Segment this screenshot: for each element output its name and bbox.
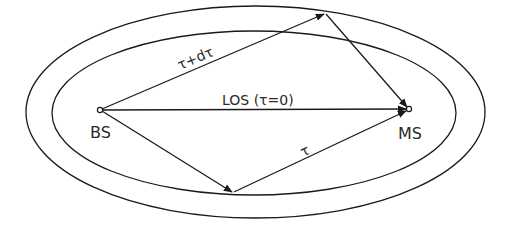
inner-delay-ellipse	[52, 31, 456, 195]
ms-node-marker	[406, 106, 411, 111]
bs-node-marker	[97, 107, 102, 112]
bs-label: BS	[90, 123, 111, 142]
inner-path-leg1-arrow	[102, 111, 232, 192]
multipath-delay-ellipse-diagram: BS MS LOS (τ=0) τ+dτ τ	[0, 0, 511, 226]
inner-path-label: τ	[298, 142, 312, 160]
outer-path-label: τ+dτ	[175, 43, 216, 72]
los-path-arrow	[102, 109, 406, 110]
outer-delay-ellipse	[26, 6, 485, 218]
inner-path-leg2-arrow	[234, 111, 406, 192]
ms-label: MS	[398, 124, 422, 143]
los-path-label: LOS (τ=0)	[222, 92, 294, 108]
